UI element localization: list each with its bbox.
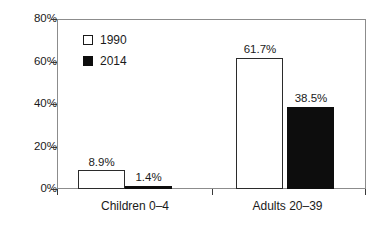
legend-swatch-open-square-icon xyxy=(83,35,93,45)
x-tick-mark-middle xyxy=(212,189,213,195)
x-category-label-adults: Adults 20–39 xyxy=(215,199,360,213)
bar-chart: 80% 60% 40% 20% 0% Children 0–4 Adults 2… xyxy=(0,0,379,230)
x-tick-mark-right xyxy=(365,189,366,195)
bar-adults-2014[interactable] xyxy=(287,107,334,189)
legend-item-1990[interactable]: 1990 xyxy=(83,31,127,49)
y-tick-label-80: 80% xyxy=(9,13,57,25)
y-tick-label-40: 40% xyxy=(9,98,57,110)
y-tick-mark-80 xyxy=(51,19,57,20)
legend-label-1990: 1990 xyxy=(100,34,127,46)
bar-value-adults-2014: 38.5% xyxy=(279,92,343,104)
y-tick-label-60: 60% xyxy=(9,56,57,68)
bar-adults-1990[interactable] xyxy=(236,58,283,189)
y-tick-label-0: 0% xyxy=(9,183,57,195)
bar-children-2014[interactable] xyxy=(125,186,172,189)
y-tick-mark-20 xyxy=(51,147,57,148)
y-tick-mark-40 xyxy=(51,104,57,105)
bar-value-children-1990: 8.9% xyxy=(71,156,132,168)
bar-value-children-2014: 1.4% xyxy=(118,171,179,183)
legend-swatch-filled-square-icon xyxy=(83,56,93,66)
x-category-label-children: Children 0–4 xyxy=(65,199,205,213)
y-axis: 80% 60% 40% 20% 0% xyxy=(0,0,57,230)
legend: 1990 2014 xyxy=(83,31,127,73)
y-tick-mark-60 xyxy=(51,62,57,63)
y-tick-label-20: 20% xyxy=(9,141,57,153)
x-tick-mark-left xyxy=(57,189,58,195)
legend-label-2014: 2014 xyxy=(100,55,127,67)
legend-item-2014[interactable]: 2014 xyxy=(83,52,127,70)
bar-value-adults-1990: 61.7% xyxy=(228,43,292,55)
